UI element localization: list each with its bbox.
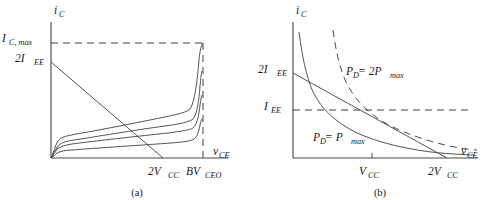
chart-b-ytick-2iee-sub: EE (276, 69, 287, 78)
chart-a-load-line (51, 62, 163, 158)
chart-a-y-axis-label-main: i (54, 4, 57, 16)
chart-b-annotation-pd-pmax-submax: max (351, 137, 365, 146)
chart-b-annotation-pd-2pmax: P D = 2P max (345, 65, 404, 80)
chart-b-y-axis-label-sub: C (301, 10, 307, 19)
chart-a-xtick-2vcc-sub: CC (168, 171, 179, 180)
chart-a-x-axis-label-sub: CE (219, 151, 229, 160)
chart-a-ic-curve-4 (51, 43, 203, 158)
chart-b-load-line (293, 73, 447, 158)
chart-a-ic-curve-3 (51, 71, 202, 158)
chart-a-xtick-2vcc: 2V CC (148, 165, 179, 180)
chart-a-xtick-2vcc-main: 2V (148, 165, 163, 177)
chart-b-ytick-2iee: 2I EE (258, 63, 287, 78)
chart-a: I C, max 2I EE i C v CE 2V CC (1, 4, 229, 199)
chart-b-caption: (b) (374, 187, 387, 199)
chart-a-ytick-icmax: I C, max (1, 32, 33, 47)
chart-a-ytick-2iee: 2I EE (15, 52, 44, 67)
figure-root: I C, max 2I EE i C v CE 2V CC (0, 0, 496, 200)
chart-b-y-axis-label-main: i (296, 4, 299, 16)
chart-b-annotation-pd-pmax-eq: = P (325, 131, 343, 143)
chart-b-ytick-iee-sub: EE (270, 106, 281, 115)
chart-b-xtick-2vcc-main: 2V (428, 165, 443, 177)
chart-b-xtick-2vcc-sub: CC (447, 171, 458, 180)
chart-b-xtick-vcc: V CC (359, 165, 379, 180)
chart-b-ytick-2iee-main: 2I (258, 63, 269, 75)
chart-b-xtick-vcc-sub: CC (368, 171, 379, 180)
chart-b-annotation-pd-2pmax-eq: = 2P (358, 65, 381, 77)
chart-a-xtick-bvceo: BV CEO (186, 165, 221, 180)
chart-a-ytick-icmax-main: I (1, 32, 7, 44)
chart-b-ytick-iee-main: I (263, 100, 269, 112)
chart-a-y-axis-label-sub: C (59, 10, 65, 19)
chart-a-xtick-bvceo-main: BV (186, 165, 202, 177)
chart-b-ytick-iee: I EE (263, 100, 281, 115)
chart-b-xtick-vcc-main: V (359, 165, 368, 177)
chart-b-annotation-pd-2pmax-submax: max (390, 71, 404, 80)
chart-a-caption: (a) (131, 187, 143, 199)
chart-a-ytick-icmax-sub: C, max (9, 38, 33, 47)
chart-a-ytick-2iee-sub: EE (33, 58, 44, 67)
chart-b-x-axis-label-sub: CE (467, 151, 477, 160)
chart-a-y-axis-label: i C (54, 4, 65, 19)
chart-b: 2I EE I EE i C v CE V CC 2 (258, 4, 478, 199)
figure-svg: I C, max 2I EE i C v CE 2V CC (0, 0, 496, 200)
chart-b-annotation-pd-pmax-p: P (312, 131, 320, 143)
chart-b-y-axis-label: i C (296, 4, 307, 19)
chart-a-xtick-bvceo-sub: CEO (205, 171, 221, 180)
chart-a-ytick-2iee-main: 2I (15, 52, 26, 64)
chart-b-annotation-pd-2pmax-p: P (345, 65, 353, 77)
chart-b-xtick-2vcc: 2V CC (428, 165, 458, 180)
